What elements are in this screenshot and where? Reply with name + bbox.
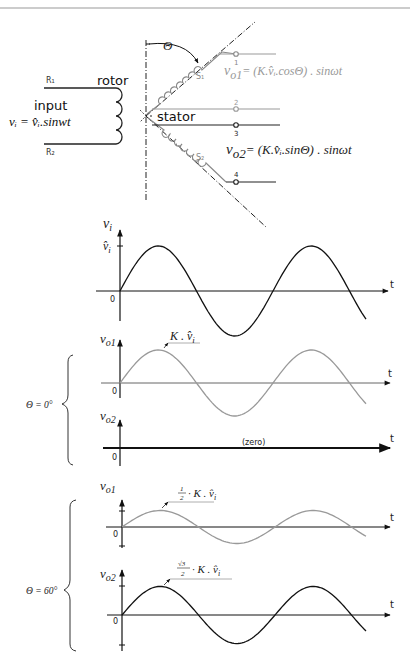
stator-coil-s2-icon — [148, 118, 226, 182]
terminal-4-icon — [234, 180, 239, 185]
origin-label: 0 — [112, 453, 117, 462]
brace-icon — [64, 500, 76, 651]
stator-coil-s1-icon — [147, 52, 222, 114]
winding-s2-label: S₂ — [196, 153, 204, 162]
terminal-2-icon — [234, 107, 239, 112]
t-label: t — [390, 279, 394, 290]
t-label: t — [388, 368, 392, 379]
ann-numerator: 1 — [180, 485, 184, 493]
rotor-label: rotor — [97, 73, 129, 88]
theta60-label: Θ = 60° — [26, 586, 58, 596]
y-label: vi — [103, 216, 112, 233]
plot-vi: vi v̂i 0 t — [96, 216, 394, 336]
input-label: input — [34, 98, 67, 113]
terminal-2-label: 2 — [234, 99, 238, 107]
angle-theta-label: Θ — [163, 38, 173, 53]
peak-label: v̂i — [103, 239, 111, 255]
plot-vo2-theta0: vo2 (zero) 0 t — [100, 408, 394, 466]
ann-numerator: √3 — [178, 560, 186, 568]
plot-vo2-theta60: √3 2 · K . v̂i vo2 0 t — [100, 560, 394, 651]
t-label: t — [390, 433, 394, 444]
stator-label: stator — [157, 109, 196, 124]
terminal-r1: R₁ — [46, 76, 55, 85]
t-label: t — [390, 599, 394, 610]
input-equation: vᵢ = v̂ᵢ.sinwt — [9, 114, 71, 129]
rotor-coil-icon — [116, 88, 122, 144]
y-label: vo2 — [100, 408, 116, 425]
ann-denominator: 2 — [181, 570, 185, 578]
theta0-label: Θ = 0° — [26, 400, 53, 410]
vo2-equation: vo2= (K.v̂ᵢ.sinΘ) . sinωt — [226, 141, 352, 161]
theta0-group: Θ = 0° — [26, 355, 73, 465]
terminal-1-icon — [234, 52, 239, 57]
theta60-group: Θ = 60° — [26, 500, 76, 651]
plot-vo1-theta60: 1 2 · K . v̂i vo1 0 t — [100, 478, 394, 548]
plot-vo1-theta0: K . v̂i vo1 0 t — [100, 329, 392, 416]
winding-s1-label: S₁ — [196, 72, 204, 81]
origin-label: 0 — [113, 530, 118, 539]
peak-annotation: · K . v̂i — [188, 487, 216, 502]
ann-denominator: 2 — [180, 494, 184, 502]
peak-annotation: · K . v̂i — [192, 563, 220, 578]
y-label: vo2 — [100, 566, 116, 583]
angle-arc-icon — [149, 43, 198, 63]
terminal-1-label: 1 — [234, 59, 238, 67]
y-label: vo1 — [100, 331, 116, 348]
terminal-r2: R₂ — [46, 148, 55, 157]
terminal-3-label: 3 — [234, 130, 238, 138]
t-label: t — [390, 512, 394, 523]
resolver-diagram: R₁ R₂ rotor input vᵢ = v̂ᵢ.sinwt Θ S₁ S₂… — [0, 0, 410, 660]
zero-annotation: (zero) — [242, 438, 265, 447]
origin-label: 0 — [113, 617, 118, 626]
terminal-3-icon — [234, 123, 239, 128]
y-label: vo1 — [100, 478, 116, 495]
origin-label: 0 — [110, 295, 115, 304]
peak-annotation: K . v̂i — [169, 329, 195, 345]
vo1-equation: vo1= (K.v̂ᵢ.cosΘ) . sinωt — [224, 63, 343, 82]
brace-icon — [62, 355, 73, 465]
s2-axis — [146, 116, 266, 227]
terminal-4-label: 4 — [234, 171, 239, 179]
origin-label: 0 — [112, 387, 117, 396]
schematic: R₁ R₂ rotor input vᵢ = v̂ᵢ.sinwt Θ S₁ S₂… — [9, 22, 352, 227]
